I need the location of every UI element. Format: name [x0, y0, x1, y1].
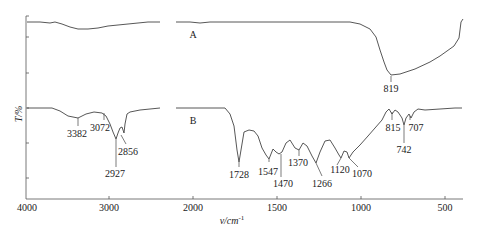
peak-label-3382: 3382 — [67, 128, 87, 139]
x-tick-label: 4000 — [17, 202, 37, 213]
peak-label-1370: 1370 — [288, 157, 308, 168]
ir-spectrum-chart: 4000 3000 2000 1500 1000 500 T/% ν/cm-1 … — [0, 0, 478, 234]
x-axis-label: ν/cm-1 — [220, 214, 245, 226]
peak-label-2856: 2856 — [118, 146, 138, 157]
x-axis-label-main: ν/cm — [220, 215, 239, 226]
peak-label-1470: 1470 — [273, 178, 293, 189]
peak-label-742: 742 — [397, 144, 412, 155]
y-axis-label: T/% — [13, 106, 24, 123]
peak-lead — [121, 135, 126, 144]
x-tick-label: 1000 — [351, 202, 371, 213]
x-tick-label: 2000 — [183, 202, 203, 213]
curve-a-left — [27, 22, 160, 29]
peak-lead — [349, 158, 358, 167]
x-tick-label: 3000 — [99, 202, 119, 213]
peak-label-819: 819 — [384, 83, 399, 94]
peak-label-707: 707 — [409, 122, 424, 133]
x-tick-label: 500 — [438, 202, 453, 213]
peak-label-1728: 1728 — [229, 169, 249, 180]
x-axis-label-sup: -1 — [239, 214, 245, 222]
peak-label-1120: 1120 — [330, 164, 350, 175]
peak-lead — [316, 163, 322, 176]
series-b: B 3382 3072 2927 2856 1728 1547 1470 137… — [27, 108, 462, 189]
peak-label-815: 815 — [386, 122, 401, 133]
series-b-label: B — [190, 115, 197, 126]
peak-label-1266: 1266 — [312, 178, 332, 189]
series-a: A 819 — [27, 19, 463, 94]
series-a-label: A — [189, 29, 197, 40]
peak-label-1547: 1547 — [258, 166, 278, 177]
peak-label-3072: 3072 — [90, 122, 110, 133]
x-tick-label: 1500 — [267, 202, 287, 213]
peak-label-2927: 2927 — [105, 168, 125, 179]
x-tick-labels: 4000 3000 2000 1500 1000 500 — [17, 202, 453, 213]
curve-b-right — [176, 108, 462, 163]
peak-label-1070: 1070 — [352, 168, 372, 179]
curve-a-right — [176, 19, 463, 75]
